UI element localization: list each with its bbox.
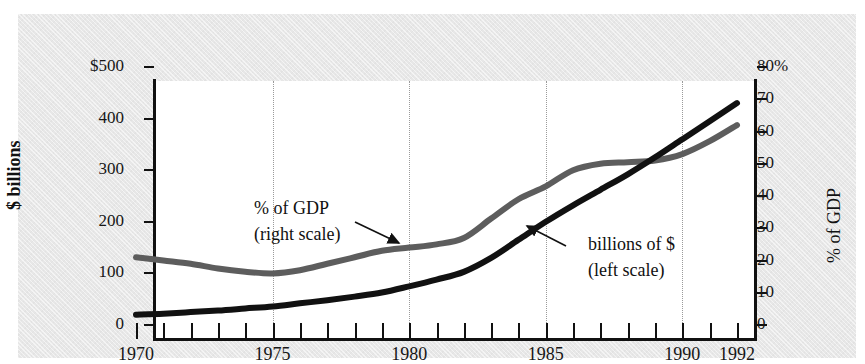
x-tick-1982 bbox=[464, 323, 466, 339]
left-tick-mark-500 bbox=[144, 66, 154, 68]
x-axis-label-1970: 1970 bbox=[91, 344, 181, 364]
x-tick-1985 bbox=[546, 323, 548, 339]
gridline-1980 bbox=[409, 81, 410, 339]
x-tick-1979 bbox=[382, 323, 384, 339]
x-tick-1987 bbox=[600, 323, 602, 339]
right-axis-label-0: 0 bbox=[757, 314, 817, 334]
right-axis-label-50: 50 bbox=[757, 153, 817, 173]
annotation-gdp: % of GDP (right scale) bbox=[254, 195, 340, 247]
x-tick-1991 bbox=[710, 323, 712, 339]
x-tick-1989 bbox=[655, 323, 657, 339]
left-axis-label-100: 100 bbox=[4, 262, 124, 282]
plot-area bbox=[154, 81, 755, 339]
x-tick-1981 bbox=[437, 323, 439, 339]
right-axis-label-80: 80% bbox=[757, 56, 817, 76]
x-tick-1990 bbox=[682, 323, 684, 339]
bottom-axis-line bbox=[153, 338, 757, 341]
x-axis-label-1985: 1985 bbox=[501, 344, 591, 364]
gridline-1985 bbox=[546, 81, 547, 339]
left-tick-mark-100 bbox=[144, 272, 154, 274]
top-cropped-text-strip bbox=[0, 0, 865, 11]
right-axis-label-30: 30 bbox=[757, 217, 817, 237]
left-tick-mark-400 bbox=[144, 118, 154, 120]
annotation-dollars: billions of $ (left scale) bbox=[588, 231, 675, 283]
left-axis-label-400: 400 bbox=[4, 108, 124, 128]
left-axis-label-0: 0 bbox=[4, 314, 124, 334]
x-axis-label-1975: 1975 bbox=[228, 344, 318, 364]
x-tick-1992 bbox=[737, 323, 739, 339]
annotation-gdp-line2: (right scale) bbox=[254, 221, 340, 247]
x-tick-1984 bbox=[518, 323, 520, 339]
x-tick-1983 bbox=[491, 323, 493, 339]
x-tick-1974 bbox=[245, 323, 247, 339]
left-axis-title: $ billions bbox=[4, 140, 25, 210]
left-tick-mark-300 bbox=[144, 169, 154, 171]
x-tick-1972 bbox=[191, 323, 193, 339]
right-axis-label-20: 20 bbox=[757, 250, 817, 270]
x-tick-1976 bbox=[300, 323, 302, 339]
right-axis-label-70: 70 bbox=[757, 88, 817, 108]
x-tick-1971 bbox=[163, 323, 165, 339]
x-axis-label-1992: 1992 bbox=[692, 344, 782, 364]
x-tick-1978 bbox=[355, 323, 357, 339]
right-axis-label-60: 60 bbox=[757, 121, 817, 141]
left-tick-mark-200 bbox=[144, 221, 154, 223]
x-tick-1986 bbox=[573, 323, 575, 339]
x-tick-1988 bbox=[628, 323, 630, 339]
left-axis-label-500: $500 bbox=[4, 56, 124, 76]
right-axis-label-10: 10 bbox=[757, 282, 817, 302]
annotation-dollars-line1: billions of $ bbox=[588, 231, 675, 257]
x-tick-1975 bbox=[273, 323, 275, 339]
x-tick-1970 bbox=[136, 323, 138, 339]
left-axis-label-200: 200 bbox=[4, 211, 124, 231]
chart-panel: $5004003002001000 80%706050403020100 197… bbox=[18, 14, 856, 358]
x-tick-1980 bbox=[409, 323, 411, 339]
x-tick-1973 bbox=[218, 323, 220, 339]
right-axis-title: % of GDP bbox=[824, 188, 845, 263]
annotation-gdp-line1: % of GDP bbox=[254, 195, 340, 221]
gridline-1990 bbox=[682, 81, 683, 339]
left-tick-mark-0 bbox=[144, 324, 154, 326]
right-axis-label-40: 40 bbox=[757, 185, 817, 205]
x-axis-label-1980: 1980 bbox=[364, 344, 454, 364]
annotation-dollars-line2: (left scale) bbox=[588, 257, 675, 283]
x-tick-1977 bbox=[327, 323, 329, 339]
